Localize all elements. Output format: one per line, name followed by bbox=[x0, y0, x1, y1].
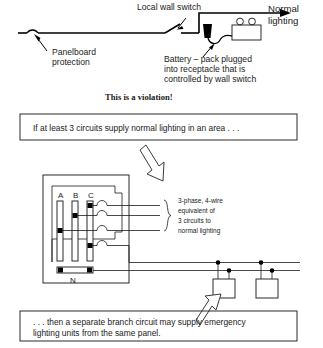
emergency-lighting-unit-2 bbox=[256, 279, 278, 298]
jumpover-arc-3 bbox=[97, 226, 107, 231]
emergency-unit-1-tap-hot bbox=[216, 260, 221, 265]
emergency-unit-1-tap-neutral bbox=[227, 268, 232, 273]
diagram-canvas: Panelboard protection Local wall switch … bbox=[0, 0, 323, 348]
emergency-unit-2-tap-hot bbox=[259, 260, 264, 265]
panelboard-protection-label-line1: Panelboard bbox=[52, 47, 96, 57]
wiring-diagram-figure: Panelboard protection Local wall switch … bbox=[0, 0, 323, 348]
panel-diagram: A B C bbox=[43, 175, 300, 298]
bus-tap-a bbox=[58, 228, 63, 233]
bus-label-a: A bbox=[58, 191, 64, 200]
battery-pack-caption-line2: into receptacle that is bbox=[164, 64, 245, 74]
panelboard-protection-label-line2: protection bbox=[52, 57, 90, 67]
callout-box-top: If at least 3 circuits supply normal lig… bbox=[20, 114, 297, 140]
feeder-annotation-line3: 3 circuits to bbox=[178, 217, 211, 224]
panel-interior-gutter-right bbox=[115, 193, 122, 239]
local-wall-switch-label: Local wall switch bbox=[137, 2, 201, 12]
callout-box-bottom-text-line1: . . . then a separate branch circuit may… bbox=[33, 317, 247, 327]
callout-box-bottom: . . . then a separate branch circuit may… bbox=[20, 311, 297, 341]
callout-top-arrow bbox=[140, 145, 164, 181]
callout-box-bottom-text-line2: lighting units from the same panel. bbox=[33, 328, 161, 338]
bus-tap-neutral-feed bbox=[88, 243, 93, 248]
switch-callout-arrowhead bbox=[177, 26, 184, 30]
receptacle-plug-icon bbox=[203, 24, 212, 38]
feeder-annotation-line1: 3-phase, 4-wire bbox=[178, 197, 223, 205]
neutral-bus-label: N bbox=[70, 276, 76, 285]
battery-pack-enclosure bbox=[232, 25, 261, 40]
normal-lighting-label-line1: Normal bbox=[268, 3, 299, 14]
violation-note: This is a violation! bbox=[105, 92, 173, 102]
bus-bar-c bbox=[87, 201, 93, 261]
bus-tap-c bbox=[88, 203, 93, 208]
feeder-group-brace bbox=[164, 200, 171, 231]
battery-pack-cord bbox=[208, 35, 232, 43]
normal-lighting-label-line2: lighting bbox=[268, 15, 298, 26]
neutral-tap-right bbox=[87, 268, 92, 273]
battery-pack-lamp-head-1 bbox=[237, 18, 244, 25]
jumpover-arc-2 bbox=[97, 211, 107, 216]
callout-box-top-text: If at least 3 circuits supply normal lig… bbox=[33, 123, 239, 133]
battery-pack-lamp-head-2 bbox=[249, 18, 256, 25]
bus-label-b: B bbox=[73, 191, 78, 200]
callout-top-arrow-shape bbox=[140, 145, 164, 181]
battery-pack-caption-line1: Battery – pack plugged bbox=[164, 54, 252, 64]
wall-switch-blade bbox=[165, 24, 180, 33]
feeder-annotation-line2: equivalent of bbox=[178, 207, 215, 215]
jumpover-arc-1 bbox=[97, 201, 107, 206]
top-circuit-diagram: Panelboard protection Local wall switch … bbox=[18, 2, 299, 84]
bus-bar-b bbox=[72, 201, 78, 261]
emergency-branch-conductor-hot bbox=[122, 246, 300, 263]
battery-pack-caption-line3: controlled by wall switch bbox=[164, 74, 256, 84]
emergency-unit-2-tap-neutral bbox=[270, 268, 275, 273]
jumpover-arc-4 bbox=[97, 241, 107, 246]
bus-tap-b bbox=[73, 213, 78, 218]
bus-label-c: C bbox=[88, 191, 94, 200]
neutral-tap-left bbox=[58, 268, 63, 273]
circuit-breaker-icon bbox=[27, 30, 38, 33]
feeder-annotation-line4: normal lighting bbox=[178, 227, 221, 235]
